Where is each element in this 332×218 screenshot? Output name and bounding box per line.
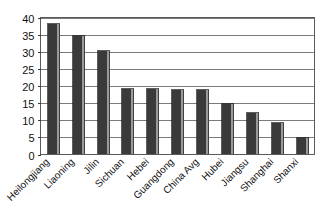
y-tick-label: 5 xyxy=(28,132,34,144)
bar xyxy=(98,51,110,155)
y-tick-label: 10 xyxy=(22,115,34,127)
y-tick-label: 30 xyxy=(22,47,34,59)
bar-side-highlight xyxy=(206,90,209,155)
bar-side-highlight xyxy=(107,51,110,155)
bar-side-highlight xyxy=(231,104,234,155)
bar xyxy=(222,104,234,155)
bar-side-highlight xyxy=(306,138,309,155)
bar-face xyxy=(272,123,282,155)
bar-face xyxy=(172,90,182,155)
y-tick-label: 25 xyxy=(22,64,34,76)
bar xyxy=(147,89,159,155)
bar xyxy=(172,90,184,155)
bar-face xyxy=(98,51,108,155)
y-tick-label: 20 xyxy=(22,81,34,93)
bar-side-highlight xyxy=(281,123,284,155)
bar xyxy=(48,24,60,155)
bar xyxy=(272,123,284,155)
y-tick-label: 35 xyxy=(22,30,34,42)
bar-face xyxy=(222,104,232,155)
bar-face xyxy=(147,89,157,155)
bar-chart: 0510152025303540 HeilongjiangLiaoningJil… xyxy=(0,0,332,218)
bar-side-highlight xyxy=(181,90,184,155)
bar xyxy=(247,113,259,155)
bar-side-highlight xyxy=(131,89,134,155)
bar xyxy=(73,36,85,155)
bar-side-highlight xyxy=(156,89,159,155)
chart-canvas: 0510152025303540 HeilongjiangLiaoningJil… xyxy=(0,0,332,218)
bar-side-highlight xyxy=(82,36,85,155)
bar-side-highlight xyxy=(256,113,259,155)
bar-face xyxy=(73,36,83,155)
bar xyxy=(122,89,134,155)
bar-face xyxy=(297,138,307,155)
bar-side-highlight xyxy=(57,24,60,155)
bar xyxy=(297,138,309,155)
y-tick-label: 40 xyxy=(22,13,34,25)
bar-face xyxy=(48,24,58,155)
y-tick-label: 15 xyxy=(22,98,34,110)
bar-face xyxy=(197,90,207,155)
bar-face xyxy=(122,89,132,155)
y-tick-label: 0 xyxy=(28,150,34,162)
bar-face xyxy=(247,113,257,155)
bar xyxy=(197,90,209,155)
